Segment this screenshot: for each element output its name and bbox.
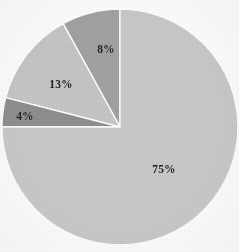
- slice-label-4: 4%: [16, 111, 34, 123]
- pie-chart: 75% 8% 13% 4%: [0, 0, 239, 252]
- pie-chart-page: 75% 8% 13% 4%: [0, 0, 239, 252]
- slice-label-75: 75%: [152, 164, 176, 176]
- slice-label-8: 8%: [97, 44, 115, 56]
- pie-chart-svg: [0, 0, 239, 252]
- slice-label-13: 13%: [49, 79, 73, 91]
